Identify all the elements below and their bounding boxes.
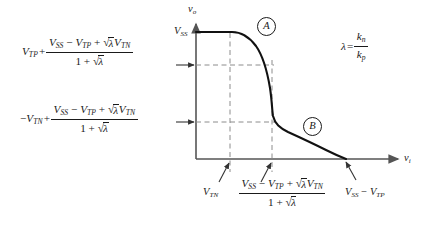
- fraction-numerator: VSS − VTP + √λVTN: [51, 103, 137, 119]
- fraction-denominator: 1 + √λ: [46, 53, 132, 68]
- lower-breakpoint-expression: −VTN+VSS − VTP + √λVTN1 + √λ: [20, 104, 138, 135]
- lambda-definition: λ=knkp: [341, 32, 368, 62]
- upper-breakpoint-expression: VTP+VSS − VTP + √λVTN1 + √λ: [22, 37, 133, 68]
- region-marker-a: A: [257, 17, 276, 36]
- pointer-vtn-tick: [219, 163, 229, 182]
- fraction: knkp: [354, 31, 368, 61]
- x-tick-label-vtn: VTN: [203, 186, 218, 199]
- fraction-denominator: 1 + √λ: [51, 120, 137, 135]
- x-axis-label: vi: [404, 152, 411, 165]
- lead-term-vtn: −VTN: [20, 112, 43, 124]
- plus-sign: +: [38, 45, 47, 57]
- pointer-vss-vtp-tick: [346, 162, 356, 180]
- y-axis-label: vo: [188, 3, 196, 16]
- fraction: VSS − VTP + √λVTN1 + √λ: [46, 36, 132, 67]
- fraction-denominator: 1 + √λ: [239, 194, 325, 209]
- lead-term-vtp: VTP: [22, 45, 38, 57]
- fraction: VSS − VTP + √λVTN1 + √λ: [239, 177, 325, 208]
- x-tick-label-vss-minus-vtp: VSS − VTP: [345, 186, 385, 199]
- x-tick-label-midpoint: VSS − VTP + √λVTN1 + √λ: [239, 178, 325, 209]
- figure-container: VTP+VSS − VTP + √λVTN1 + √λ −VTN+VSS − V…: [0, 0, 430, 229]
- fraction-denominator: kp: [354, 47, 368, 62]
- y-axis-vss-label: VSS: [174, 25, 188, 38]
- region-marker-b: B: [303, 117, 322, 136]
- fraction-numerator: kn: [354, 31, 368, 46]
- fraction: VSS − VTP + √λVTN1 + √λ: [51, 103, 137, 134]
- vtc-curve: [196, 32, 346, 159]
- plus-sign: +: [43, 112, 52, 124]
- fraction-numerator: VSS − VTP + √λVTN: [239, 177, 325, 193]
- equals-sign: =: [346, 40, 355, 52]
- fraction-numerator: VSS − VTP + √λVTN: [46, 36, 132, 52]
